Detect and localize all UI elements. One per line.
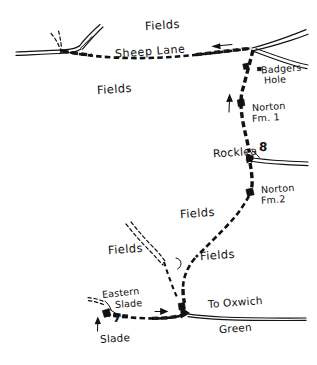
road-top-left bbox=[16, 25, 103, 56]
building-markers-north bbox=[237, 63, 261, 196]
label-eastern-slade: Eastern Slade bbox=[102, 288, 142, 309]
label-oxwich-green: Green bbox=[219, 323, 252, 334]
label-sheep-lane: Sheep Lane bbox=[115, 46, 186, 58]
arrow-norton-up bbox=[226, 94, 233, 112]
label-fields-top: Fields bbox=[145, 19, 180, 31]
arrow-oxwich-right bbox=[155, 308, 168, 315]
label-fields-upper-left: Fields bbox=[97, 83, 132, 95]
label-fields-mid: Fields bbox=[180, 207, 215, 219]
label-slade: Slade bbox=[100, 333, 130, 344]
label-marker-8: 8 bbox=[259, 141, 267, 154]
footpath-main-north bbox=[183, 50, 253, 303]
label-fields-right: Fields bbox=[200, 249, 235, 261]
label-norton-fm-1: Norton Fm. 1 bbox=[252, 102, 286, 123]
arrow-sheep-lane-left bbox=[212, 43, 233, 49]
label-marker-7: 7 bbox=[113, 312, 121, 325]
footpath-spur-top-left bbox=[51, 31, 62, 49]
label-rocklea: Rocklea bbox=[213, 147, 257, 159]
label-norton-fm-2: Norton Fm.2 bbox=[261, 184, 295, 205]
label-fields-left: Fields bbox=[108, 243, 143, 255]
label-to-oxwich: To Oxwich bbox=[208, 297, 263, 308]
map-canvas: .rd{fill:none;stroke:#111;stroke-width:1… bbox=[0, 0, 317, 365]
label-badgers-hole: Badgers Hole bbox=[261, 64, 302, 85]
